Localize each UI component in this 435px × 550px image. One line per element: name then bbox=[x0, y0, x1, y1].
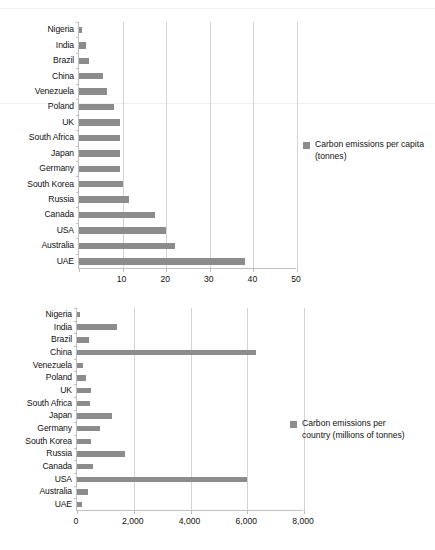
category-label: Germany bbox=[37, 424, 72, 433]
x-tick-label: 50 bbox=[291, 274, 301, 284]
category-tick-mark bbox=[76, 53, 79, 54]
category-tick-mark bbox=[76, 238, 79, 239]
category-tick-mark bbox=[76, 254, 79, 255]
category-tick-mark bbox=[74, 397, 77, 398]
category-label: Venezuela bbox=[33, 361, 72, 370]
category-tick-mark bbox=[76, 130, 79, 131]
category-label: Poland bbox=[46, 373, 72, 382]
bar bbox=[79, 73, 103, 79]
tick-mark bbox=[297, 269, 298, 272]
chart2-legend-label: Carbon emissions per country (millions o… bbox=[302, 418, 412, 441]
x-tick-label: 20 bbox=[160, 274, 170, 284]
bar bbox=[77, 337, 89, 342]
category-label: China bbox=[52, 72, 74, 81]
category-tick-mark bbox=[74, 435, 77, 436]
category-tick-mark bbox=[76, 115, 79, 116]
category-tick-mark bbox=[74, 346, 77, 347]
bar bbox=[77, 324, 117, 329]
tick-mark bbox=[253, 269, 254, 272]
gridline bbox=[166, 22, 167, 269]
category-tick-mark bbox=[76, 68, 79, 69]
tick-mark bbox=[191, 511, 192, 514]
chart-page: NigeriaIndiaBrazilChinaVenezuelaPolandUK… bbox=[0, 0, 435, 550]
category-label: Russia bbox=[48, 195, 74, 204]
bar bbox=[79, 135, 120, 141]
bar bbox=[77, 375, 86, 380]
bar bbox=[79, 212, 155, 218]
category-tick-mark bbox=[74, 448, 77, 449]
x-tick-label: 8,000 bbox=[292, 516, 314, 526]
bar bbox=[77, 363, 83, 368]
category-label: Canada bbox=[44, 210, 74, 219]
bar bbox=[77, 477, 247, 482]
bar bbox=[79, 104, 114, 110]
legend-swatch-icon bbox=[303, 142, 310, 149]
bar bbox=[77, 439, 91, 444]
category-label: India bbox=[56, 41, 74, 50]
category-tick-mark bbox=[74, 486, 77, 487]
category-tick-mark bbox=[76, 176, 79, 177]
x-tick-label: 4,000 bbox=[179, 516, 201, 526]
category-label: Canada bbox=[42, 462, 72, 471]
bar bbox=[77, 413, 112, 418]
bar bbox=[77, 489, 88, 494]
bar bbox=[79, 243, 175, 249]
category-label: UK bbox=[62, 118, 74, 127]
x-tick-label: 6,000 bbox=[235, 516, 257, 526]
category-label: Brazil bbox=[51, 335, 72, 344]
bar bbox=[79, 58, 89, 64]
chart1-plot-area bbox=[78, 22, 296, 269]
chart1-legend-label: Carbon emissions per capita (tonnes) bbox=[315, 139, 425, 162]
bar bbox=[77, 350, 256, 355]
bar bbox=[79, 258, 245, 264]
category-tick-mark bbox=[76, 146, 79, 147]
x-tick-label: 10 bbox=[117, 274, 127, 284]
category-label: South Africa bbox=[29, 133, 74, 142]
category-tick-mark bbox=[74, 308, 77, 309]
bar bbox=[77, 312, 80, 317]
top-divider-rule bbox=[0, 8, 435, 9]
category-label: Russia bbox=[46, 449, 72, 458]
category-tick-mark bbox=[74, 359, 77, 360]
category-tick-mark bbox=[74, 321, 77, 322]
category-label: China bbox=[50, 348, 72, 357]
category-label: Brazil bbox=[53, 56, 74, 65]
category-label: Venezuela bbox=[35, 87, 74, 96]
category-tick-mark bbox=[76, 207, 79, 208]
bar bbox=[79, 181, 123, 187]
category-tick-mark bbox=[74, 422, 77, 423]
tick-mark bbox=[123, 269, 124, 272]
category-label: UK bbox=[60, 386, 72, 395]
category-label: Germany bbox=[39, 164, 74, 173]
category-label: Poland bbox=[48, 102, 74, 111]
bar bbox=[79, 42, 86, 48]
legend-swatch-icon bbox=[290, 421, 297, 428]
x-tick-label: 30 bbox=[204, 274, 214, 284]
bar bbox=[79, 119, 120, 125]
category-tick-mark bbox=[74, 473, 77, 474]
category-label: UAE bbox=[57, 257, 74, 266]
category-tick-mark bbox=[74, 333, 77, 334]
x-tick-label: 2,000 bbox=[122, 516, 144, 526]
category-label: UAE bbox=[55, 500, 72, 509]
bar bbox=[79, 196, 129, 202]
category-label: Japan bbox=[51, 149, 74, 158]
chart1-legend: Carbon emissions per capita (tonnes) bbox=[303, 139, 425, 162]
category-tick-mark bbox=[76, 84, 79, 85]
category-tick-mark bbox=[74, 371, 77, 372]
category-tick-mark bbox=[74, 384, 77, 385]
bar bbox=[79, 27, 82, 33]
category-label: South Africa bbox=[27, 399, 72, 408]
x-tick-label: 0 bbox=[74, 516, 79, 526]
bar bbox=[77, 451, 125, 456]
chart2-plot-area bbox=[76, 308, 303, 511]
bar bbox=[79, 166, 120, 172]
gridline bbox=[297, 22, 298, 269]
x-tick-label: 40 bbox=[248, 274, 258, 284]
chart2-legend: Carbon emissions per country (millions o… bbox=[290, 418, 412, 441]
category-label: South Korea bbox=[25, 437, 72, 446]
category-tick-mark bbox=[76, 161, 79, 162]
category-label: Australia bbox=[39, 487, 72, 496]
gridline bbox=[247, 308, 248, 511]
category-label: USA bbox=[57, 226, 74, 235]
